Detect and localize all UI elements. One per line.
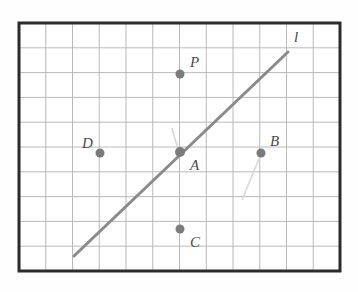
point-dot-a: [175, 147, 185, 157]
point-label-p: P: [189, 54, 199, 70]
point-dot-c: [176, 225, 185, 234]
geometry-figure: l PDABC: [0, 0, 358, 292]
point-label-d: D: [81, 135, 93, 151]
point-dot-p: [176, 70, 185, 79]
line-l-label: l: [294, 29, 298, 45]
figure-canvas: l PDABC: [0, 0, 358, 292]
point-label-c: C: [190, 234, 201, 250]
point-label-b: B: [270, 133, 279, 149]
point-dot-d: [96, 149, 105, 158]
point-label-a: A: [189, 157, 200, 173]
point-dot-b: [257, 149, 266, 158]
